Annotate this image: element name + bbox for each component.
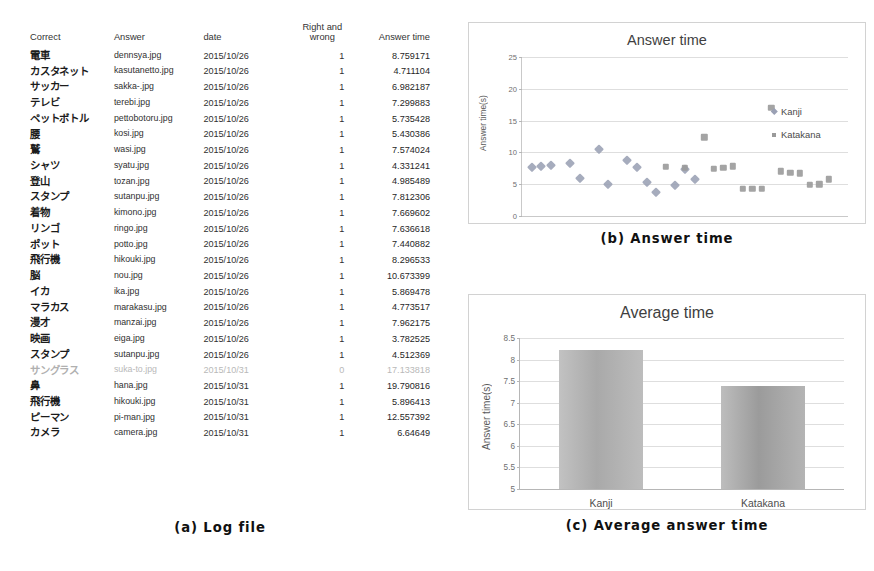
y-axis-label-answer-time: Answer time(s) xyxy=(478,71,488,175)
cell-correct: ポット xyxy=(30,237,114,253)
cell-answer-time: 5.896413 xyxy=(358,394,430,410)
cell-date: 2015/10/26 xyxy=(203,237,286,253)
data-point-kanji xyxy=(632,162,641,171)
legend-label-kanji: Kanji xyxy=(781,107,802,116)
cell-answer-time: 7.440882 xyxy=(358,237,430,253)
cell-right-and-wrong: 1 xyxy=(286,252,358,268)
x-axis-label-kanji: Kanji xyxy=(589,498,612,509)
cell-answer: terebi.jpg xyxy=(114,95,204,111)
cell-right-and-wrong: 1 xyxy=(286,205,358,221)
caption-answer-time: (b) Answer time xyxy=(462,231,872,246)
table-row: 着物kimono.jpg2015/10/2617.669602 xyxy=(30,205,430,221)
table-row: 飛行機hikouki.jpg2015/10/3115.896413 xyxy=(30,394,430,410)
cell-answer-time: 7.669602 xyxy=(358,205,430,221)
cell-answer-time: 19.790816 xyxy=(358,378,430,394)
cell-answer-time: 4.711104 xyxy=(358,64,430,80)
cell-answer-time: 7.299883 xyxy=(358,95,430,111)
y-axis-tick-label: 5 xyxy=(510,485,515,494)
y-axis-tick-label: 20 xyxy=(509,84,517,93)
legend-label-katakana: Katakana xyxy=(781,130,821,139)
cell-right-and-wrong: 1 xyxy=(286,79,358,95)
data-point-katakana xyxy=(806,182,812,188)
cell-correct: テレビ xyxy=(30,95,114,111)
cell-right-and-wrong: 1 xyxy=(286,300,358,316)
y-axis-tick-label: 8.5 xyxy=(504,334,515,343)
cell-answer: manzai.jpg xyxy=(114,315,204,331)
chart-legend: Kanji Katakana xyxy=(767,107,821,154)
gridline xyxy=(520,338,844,339)
caption-log-file: (a) Log file xyxy=(0,520,440,535)
cell-answer: hikouki.jpg xyxy=(114,252,204,268)
cell-right-and-wrong: 1 xyxy=(286,189,358,205)
log-file-panel: Correct Answer date Right and wrong Answ… xyxy=(0,0,455,571)
cell-answer-time: 7.636618 xyxy=(358,221,430,237)
cell-date: 2015/10/31 xyxy=(203,394,286,410)
axis-tick-mark xyxy=(517,446,520,447)
cell-date: 2015/10/26 xyxy=(203,252,286,268)
caption-average-answer-time: (c) Average answer time xyxy=(462,518,872,533)
data-point-katakana xyxy=(711,166,717,172)
cell-answer: sutanpu.jpg xyxy=(114,189,204,205)
table-row: ピーマンpi-man.jpg2015/10/31112.557392 xyxy=(30,410,430,426)
cell-correct: ペットボトル xyxy=(30,111,114,127)
cell-answer: eiga.jpg xyxy=(114,331,204,347)
cell-correct: ピーマン xyxy=(30,410,114,426)
column-header-right-and-wrong-line2: wrong xyxy=(310,32,335,42)
cell-right-and-wrong: 1 xyxy=(286,158,358,174)
data-point-katakana xyxy=(759,185,765,191)
data-point-kanji xyxy=(527,162,536,171)
cell-answer: nou.jpg xyxy=(114,268,204,284)
gridline xyxy=(522,57,848,58)
cell-answer-time: 5.430386 xyxy=(358,126,430,142)
cell-date: 2015/10/31 xyxy=(203,378,286,394)
y-axis-tick-label: 7.5 xyxy=(504,377,515,386)
cell-date: 2015/10/31 xyxy=(203,425,286,441)
cell-correct: 電車 xyxy=(30,48,114,64)
cell-answer-time: 7.574024 xyxy=(358,142,430,158)
cell-date: 2015/10/26 xyxy=(203,158,286,174)
cell-correct: 漫才 xyxy=(30,315,114,331)
cell-date: 2015/10/26 xyxy=(203,315,286,331)
cell-date: 2015/10/26 xyxy=(203,331,286,347)
table-row: 腰kosi.jpg2015/10/2615.430386 xyxy=(30,126,430,142)
cell-date: 2015/10/26 xyxy=(203,79,286,95)
axis-tick-mark xyxy=(517,424,520,425)
cell-correct: 鷲 xyxy=(30,142,114,158)
cell-right-and-wrong: 1 xyxy=(286,315,358,331)
column-header-answer-time: Answer time xyxy=(358,22,430,48)
chart-title-average-time: Average time xyxy=(469,304,865,322)
axis-tick-mark xyxy=(517,360,520,361)
cell-right-and-wrong: 1 xyxy=(286,237,358,253)
axis-tick-mark xyxy=(519,152,522,153)
cell-date: 2015/10/26 xyxy=(203,221,286,237)
y-axis-tick-label: 6.5 xyxy=(504,420,515,429)
bar-plot-area: 55.566.577.588.5KanjiKatakana xyxy=(519,338,844,490)
cell-answer-time: 5.869478 xyxy=(358,284,430,300)
axis-tick-mark xyxy=(517,381,520,382)
cell-correct: マラカス xyxy=(30,300,114,316)
table-row: 鷲wasi.jpg2015/10/2617.574024 xyxy=(30,142,430,158)
cell-right-and-wrong: 1 xyxy=(286,95,358,111)
legend-item-katakana: Katakana xyxy=(767,130,821,139)
cell-answer: kimono.jpg xyxy=(114,205,204,221)
cell-correct: スタンプ xyxy=(30,189,114,205)
table-row: マラカスmarakasu.jpg2015/10/2614.773517 xyxy=(30,300,430,316)
cell-date: 2015/10/31 xyxy=(203,363,286,379)
cell-right-and-wrong: 1 xyxy=(286,347,358,363)
column-header-right-and-wrong: Right and wrong xyxy=(286,22,358,48)
table-row: カスタネットkasutanetto.jpg2015/10/2614.711104 xyxy=(30,64,430,80)
column-header-answer: Answer xyxy=(114,22,204,48)
bar-katakana xyxy=(721,386,805,489)
cell-correct: サングラス xyxy=(30,363,114,379)
cell-answer-time: 12.557392 xyxy=(358,410,430,426)
axis-tick-mark xyxy=(517,338,520,339)
cell-answer-time: 6.982187 xyxy=(358,79,430,95)
y-axis-tick-label: 5.5 xyxy=(504,463,515,472)
table-row: 漫才manzai.jpg2015/10/2617.962175 xyxy=(30,315,430,331)
cell-answer: dennsya.jpg xyxy=(114,48,204,64)
cell-date: 2015/10/26 xyxy=(203,142,286,158)
cell-correct: 飛行機 xyxy=(30,252,114,268)
table-body: 電車dennsya.jpg2015/10/2618.759171カスタネットka… xyxy=(30,48,430,441)
bar-kanji xyxy=(559,350,643,489)
log-file-table: Correct Answer date Right and wrong Answ… xyxy=(30,22,430,441)
